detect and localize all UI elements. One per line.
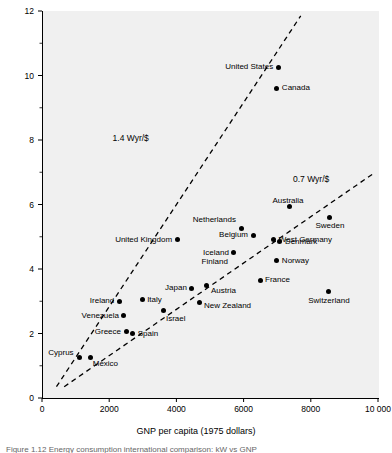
data-point-label: Greece bbox=[95, 328, 121, 336]
data-point-label: Mexico bbox=[93, 360, 118, 368]
x-tick-label: 8000 bbox=[281, 405, 341, 414]
data-point-label: Venezuela bbox=[82, 312, 119, 320]
data-point-label: Canada bbox=[282, 84, 310, 92]
data-point bbox=[117, 299, 122, 304]
data-point-label: Norway bbox=[282, 257, 309, 265]
x-tick-label: 2000 bbox=[79, 405, 139, 414]
x-tick-label: 0 bbox=[12, 405, 72, 414]
data-point-label: United States bbox=[225, 63, 273, 71]
data-point bbox=[124, 329, 129, 334]
data-point-label: United Kingdom bbox=[115, 236, 172, 244]
data-point-label: Finland bbox=[202, 258, 228, 266]
data-point-label: Austria bbox=[211, 287, 236, 295]
data-point-label: Switzerland bbox=[308, 297, 349, 305]
y-tick-label: 10 bbox=[12, 72, 34, 81]
data-point bbox=[140, 297, 145, 302]
data-point bbox=[276, 65, 281, 70]
data-point-label: Israel bbox=[166, 315, 186, 323]
x-axis-label: GNP per capita (1975 dollars) bbox=[0, 426, 392, 436]
data-point-label: Sweden bbox=[315, 222, 344, 230]
y-tick-label: 0 bbox=[12, 394, 34, 403]
y-tick-label: 2 bbox=[12, 330, 34, 339]
data-point bbox=[251, 233, 256, 238]
data-point bbox=[258, 278, 263, 283]
y-tick-label: 12 bbox=[12, 7, 34, 16]
x-tick-label: 4000 bbox=[146, 405, 206, 414]
y-tick-label: 8 bbox=[12, 136, 34, 145]
trend-line-label: 1.4 Wyr/$ bbox=[113, 134, 149, 143]
trend-line-label: 0.7 Wyr/$ bbox=[293, 174, 329, 183]
x-tick-label: 10 000 bbox=[348, 405, 392, 414]
figure-caption: Figure 1.12 Energy consumption internati… bbox=[0, 445, 392, 453]
data-point-label: Iceland bbox=[203, 249, 229, 257]
data-point-label: Ireland bbox=[90, 297, 114, 305]
data-point-label: Denmark bbox=[285, 238, 317, 246]
data-point-label: Belgium bbox=[219, 231, 248, 239]
y-tick-label: 6 bbox=[12, 201, 34, 210]
y-tick-label: 4 bbox=[12, 265, 34, 274]
data-point-label: Italy bbox=[147, 296, 162, 304]
data-point-label: Japan bbox=[165, 284, 187, 292]
plot-area bbox=[42, 11, 379, 399]
x-tick-label: 6000 bbox=[214, 405, 274, 414]
data-point-label: France bbox=[265, 276, 290, 284]
data-point-label: New Zealand bbox=[204, 302, 251, 310]
data-point-label: Spain bbox=[138, 330, 158, 338]
data-point-label: Netherlands bbox=[193, 216, 236, 224]
figure-container: kW per capita GNP per capita (1975 dolla… bbox=[0, 0, 392, 453]
data-point-label: Australia bbox=[272, 197, 303, 205]
data-point-label: Cyprus bbox=[48, 349, 73, 357]
